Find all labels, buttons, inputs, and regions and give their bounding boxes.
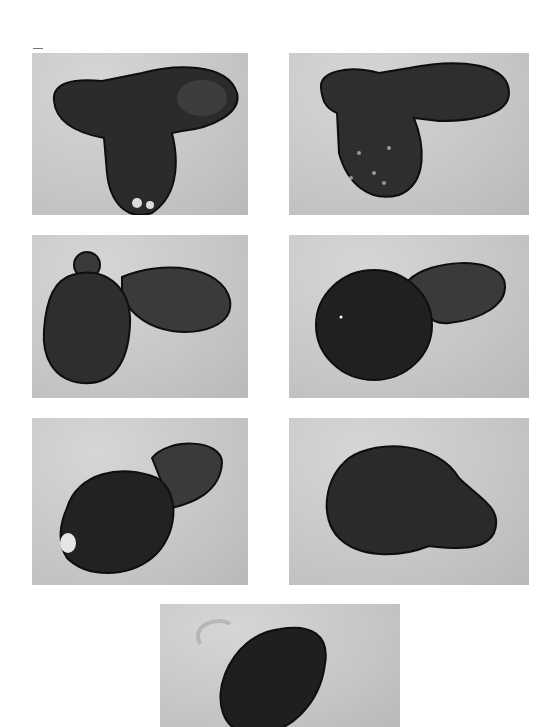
organism-image <box>32 418 248 585</box>
organism-image <box>32 53 248 215</box>
micrograph-panel-7 <box>160 604 400 727</box>
scale-mark <box>33 48 43 49</box>
micrograph-panel-6 <box>289 418 529 585</box>
micrograph-panel-5 <box>32 418 248 585</box>
organism-image <box>32 235 248 398</box>
micrograph-panel-4 <box>289 235 529 398</box>
micrograph-panel-1 <box>32 53 248 215</box>
micrograph-panel-2 <box>289 53 529 215</box>
micrograph-panel-3 <box>32 235 248 398</box>
organism-image <box>289 53 529 215</box>
organism-image <box>289 235 529 398</box>
organism-image <box>160 604 400 727</box>
organism-image <box>289 418 529 585</box>
